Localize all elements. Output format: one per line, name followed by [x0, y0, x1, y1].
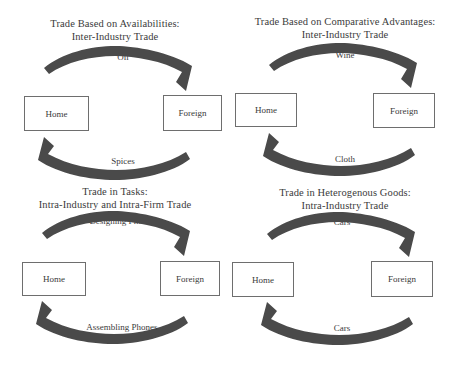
node-foreign-label: Foreign — [390, 106, 418, 116]
node-home-label: Home — [252, 275, 274, 285]
node-foreign: Foreign — [163, 95, 222, 131]
top-arrow-right — [44, 46, 192, 91]
node-foreign: Foreign — [373, 93, 435, 128]
panel-heterogenous-goods: Trade in Heterogenous Goods: Intra-Indus… — [230, 183, 460, 366]
panel-comparative-advantages: Trade Based on Comparative Advantages: I… — [230, 0, 460, 183]
top-arrow-right — [269, 43, 417, 88]
node-home-label: Home — [43, 274, 65, 284]
panel-tasks: Trade in Tasks: Intra-Industry and Intra… — [0, 183, 230, 366]
node-home: Home — [22, 262, 86, 296]
node-foreign-label: Foreign — [176, 274, 204, 284]
bottom-flow-label: Spices — [63, 156, 183, 166]
node-foreign-label: Foreign — [179, 108, 207, 118]
top-arrow-right — [267, 212, 415, 257]
node-home: Home — [235, 93, 297, 127]
bottom-flow-label: Cloth — [285, 154, 405, 164]
trade-typology-diagram: Trade Based on Availabilities: Inter-Ind… — [0, 0, 460, 366]
node-foreign: Foreign — [371, 261, 433, 297]
panel-availabilities: Trade Based on Availabilities: Inter-Ind… — [0, 0, 230, 183]
bottom-flow-label: Cars — [282, 323, 402, 333]
node-home: Home — [24, 96, 89, 131]
bottom-flow-label: Assembling Phones — [62, 322, 182, 332]
node-home-label: Home — [46, 109, 68, 119]
top-arrow-right — [42, 211, 190, 256]
node-foreign: Foreign — [160, 261, 220, 296]
node-home: Home — [232, 262, 294, 297]
node-home-label: Home — [255, 105, 277, 115]
node-foreign-label: Foreign — [388, 274, 416, 284]
